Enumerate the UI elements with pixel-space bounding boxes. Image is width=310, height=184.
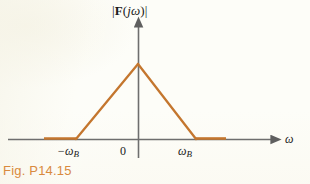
pos-omega-b-subscript: B <box>186 149 192 159</box>
y-title-omega: ω <box>131 3 140 18</box>
neg-omega-b-base: −ω <box>57 144 74 158</box>
neg-omega-b-subscript: B <box>74 149 80 159</box>
x-tick-label-origin: 0 <box>120 145 126 157</box>
spectrum-plot <box>0 0 310 184</box>
spectrum-falling-edge <box>138 64 196 139</box>
figure-caption: Fig. P14.15 <box>3 163 72 178</box>
y-title-right-bar: | <box>145 3 148 18</box>
y-title-bold-f: F <box>115 3 123 18</box>
spectrum-rising-edge <box>76 64 138 139</box>
x-tick-label-negative-omega-b: −ωB <box>57 145 79 159</box>
x-tick-label-positive-omega-b: ωB <box>178 145 192 159</box>
figure-container: |F(jω)| −ωB 0 ωB ω Fig. P14.15 <box>0 0 310 184</box>
x-axis-title: ω <box>285 133 293 145</box>
y-axis-title: |F(jω)| <box>112 4 147 17</box>
